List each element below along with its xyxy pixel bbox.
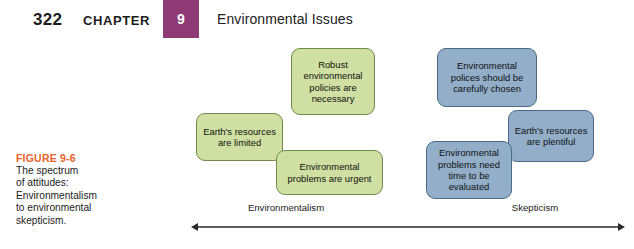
node-policies-carefully-chosen: Environmental polices should be carefull… xyxy=(437,48,537,107)
spectrum-axis-arrow xyxy=(190,219,626,235)
node-resources-plentiful: Earth's resources are plentiful xyxy=(508,110,594,162)
spectrum-diagram: Robust environmental policies are necess… xyxy=(0,0,634,249)
node-problems-urgent: Environmental problems are urgent xyxy=(276,150,383,195)
axis-label-environmentalism: Environmentalism xyxy=(221,202,351,213)
node-robust-policies: Robust environmental policies are necess… xyxy=(291,48,375,115)
axis-label-skepticism: Skepticism xyxy=(470,202,600,213)
node-resources-limited: Earth's resources are limited xyxy=(196,113,283,161)
node-problems-need-time: Environmental problems need time to be e… xyxy=(426,141,512,199)
